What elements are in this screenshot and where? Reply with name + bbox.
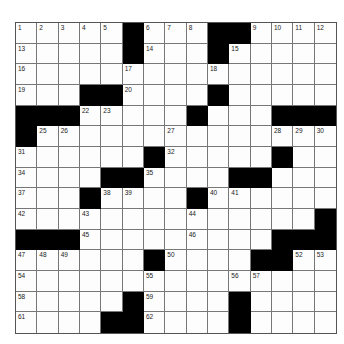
grid-cell[interactable] [315, 85, 336, 106]
grid-cell[interactable]: 1 [16, 23, 37, 44]
grid-cell[interactable] [208, 312, 229, 333]
grid-cell[interactable] [315, 147, 336, 168]
grid-cell[interactable]: 16 [16, 64, 37, 85]
grid-cell[interactable] [165, 64, 186, 85]
grid-cell[interactable] [59, 168, 80, 189]
grid-cell[interactable]: 30 [315, 126, 336, 147]
grid-cell[interactable] [187, 64, 208, 85]
grid-cell[interactable]: 25 [37, 126, 58, 147]
grid-cell[interactable] [229, 64, 250, 85]
grid-cell[interactable] [229, 126, 250, 147]
grid-cell[interactable] [37, 188, 58, 209]
grid-cell[interactable] [165, 230, 186, 251]
grid-cell[interactable] [272, 168, 293, 189]
grid-cell[interactable] [229, 230, 250, 251]
grid-cell[interactable]: 35 [144, 168, 165, 189]
grid-cell[interactable]: 28 [272, 126, 293, 147]
grid-cell[interactable] [165, 292, 186, 313]
grid-cell[interactable] [80, 271, 101, 292]
grid-cell[interactable]: 38 [101, 188, 122, 209]
grid-cell[interactable] [80, 168, 101, 189]
grid-cell[interactable] [293, 271, 314, 292]
grid-cell[interactable]: 48 [37, 250, 58, 271]
grid-cell[interactable] [272, 64, 293, 85]
grid-cell[interactable] [101, 271, 122, 292]
grid-cell[interactable] [101, 126, 122, 147]
grid-cell[interactable] [101, 147, 122, 168]
grid-cell[interactable] [272, 209, 293, 230]
grid-cell[interactable]: 8 [187, 23, 208, 44]
grid-cell[interactable] [208, 230, 229, 251]
grid-cell[interactable]: 7 [165, 23, 186, 44]
grid-cell[interactable] [123, 126, 144, 147]
grid-cell[interactable] [293, 312, 314, 333]
grid-cell[interactable] [272, 188, 293, 209]
grid-cell[interactable] [80, 147, 101, 168]
grid-cell[interactable] [123, 230, 144, 251]
grid-cell[interactable]: 9 [251, 23, 272, 44]
grid-cell[interactable]: 26 [59, 126, 80, 147]
grid-cell[interactable] [101, 209, 122, 230]
grid-cell[interactable]: 5 [101, 23, 122, 44]
grid-cell[interactable] [59, 209, 80, 230]
grid-cell[interactable] [293, 188, 314, 209]
grid-cell[interactable] [229, 209, 250, 230]
grid-cell[interactable]: 56 [229, 271, 250, 292]
grid-cell[interactable] [37, 85, 58, 106]
grid-cell[interactable] [37, 168, 58, 189]
grid-cell[interactable] [101, 250, 122, 271]
grid-cell[interactable] [37, 44, 58, 65]
grid-cell[interactable] [101, 44, 122, 65]
grid-cell[interactable] [144, 188, 165, 209]
grid-cell[interactable] [80, 44, 101, 65]
grid-cell[interactable] [37, 312, 58, 333]
grid-cell[interactable] [165, 271, 186, 292]
grid-cell[interactable] [208, 292, 229, 313]
grid-cell[interactable] [144, 209, 165, 230]
grid-cell[interactable]: 23 [101, 106, 122, 127]
grid-cell[interactable] [293, 168, 314, 189]
grid-cell[interactable] [315, 44, 336, 65]
grid-cell[interactable]: 29 [293, 126, 314, 147]
grid-cell[interactable] [315, 168, 336, 189]
grid-cell[interactable] [59, 292, 80, 313]
grid-cell[interactable] [144, 126, 165, 147]
grid-cell[interactable]: 39 [123, 188, 144, 209]
grid-cell[interactable] [272, 292, 293, 313]
grid-cell[interactable] [165, 209, 186, 230]
grid-cell[interactable]: 3 [59, 23, 80, 44]
grid-cell[interactable] [315, 64, 336, 85]
grid-cell[interactable] [165, 188, 186, 209]
grid-cell[interactable] [187, 292, 208, 313]
grid-cell[interactable] [59, 271, 80, 292]
grid-cell[interactable]: 12 [315, 23, 336, 44]
grid-cell[interactable] [251, 147, 272, 168]
grid-cell[interactable] [123, 106, 144, 127]
grid-cell[interactable]: 41 [229, 188, 250, 209]
grid-cell[interactable]: 6 [144, 23, 165, 44]
grid-cell[interactable] [187, 250, 208, 271]
grid-cell[interactable]: 22 [80, 106, 101, 127]
grid-cell[interactable]: 42 [16, 209, 37, 230]
grid-cell[interactable]: 43 [80, 209, 101, 230]
grid-cell[interactable]: 11 [293, 23, 314, 44]
grid-cell[interactable] [187, 312, 208, 333]
grid-cell[interactable] [80, 64, 101, 85]
grid-cell[interactable] [37, 271, 58, 292]
grid-cell[interactable]: 19 [16, 85, 37, 106]
grid-cell[interactable]: 50 [165, 250, 186, 271]
grid-cell[interactable]: 59 [144, 292, 165, 313]
grid-cell[interactable] [293, 85, 314, 106]
grid-cell[interactable] [208, 250, 229, 271]
grid-cell[interactable] [251, 230, 272, 251]
grid-cell[interactable] [101, 64, 122, 85]
grid-cell[interactable] [80, 126, 101, 147]
grid-cell[interactable] [251, 292, 272, 313]
grid-cell[interactable]: 58 [16, 292, 37, 313]
grid-cell[interactable] [165, 106, 186, 127]
grid-cell[interactable] [37, 292, 58, 313]
grid-cell[interactable] [123, 147, 144, 168]
grid-cell[interactable]: 47 [16, 250, 37, 271]
grid-cell[interactable]: 49 [59, 250, 80, 271]
grid-cell[interactable] [187, 271, 208, 292]
